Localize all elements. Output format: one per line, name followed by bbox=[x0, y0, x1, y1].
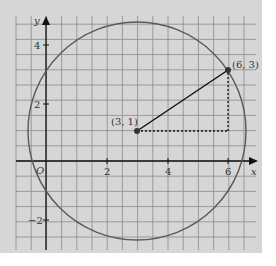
circle-point bbox=[225, 67, 231, 73]
x-axis-label: x bbox=[251, 166, 257, 177]
origin-label: O bbox=[36, 165, 44, 176]
x-tick-2: 2 bbox=[104, 166, 110, 177]
y-tick-neg2: −2 bbox=[28, 215, 43, 226]
y-axis-label: y bbox=[33, 15, 40, 26]
circle-point-label: (6, 3) bbox=[232, 59, 259, 70]
x-tick-4: 4 bbox=[165, 166, 171, 177]
x-tick-6: 6 bbox=[225, 166, 231, 177]
y-tick-2: 2 bbox=[34, 99, 40, 110]
coordinate-diagram: (3, 1) (6, 3) x y O 2 4 6 4 2 −2 bbox=[0, 0, 276, 266]
center-point bbox=[134, 128, 140, 134]
y-axis-arrow-icon bbox=[42, 16, 50, 25]
y-tick-4: 4 bbox=[34, 40, 40, 51]
x-axis-arrow-icon bbox=[249, 157, 258, 165]
center-point-label: (3, 1) bbox=[111, 116, 138, 127]
